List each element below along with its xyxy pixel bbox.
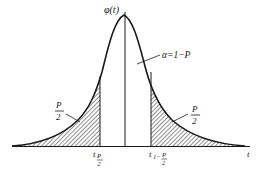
right-critical-value-label: t 1− P 2 bbox=[149, 149, 167, 166]
y-axis-label: φ(t) bbox=[104, 4, 120, 16]
svg-text:2: 2 bbox=[98, 160, 102, 167]
probability-density-diagram: φ(t) α=1−P P 2 P 2 t t P 2 t 1− P 2 bbox=[0, 0, 279, 178]
svg-text:t: t bbox=[149, 149, 152, 159]
svg-text:P: P bbox=[96, 152, 102, 160]
svg-text:P: P bbox=[191, 104, 198, 114]
svg-text:2: 2 bbox=[162, 160, 165, 166]
right-tail-label: P 2 bbox=[191, 104, 200, 126]
svg-text:P: P bbox=[55, 100, 62, 110]
left-critical-value-label: t P 2 bbox=[93, 149, 103, 167]
svg-text:2: 2 bbox=[192, 116, 197, 126]
left-tail-leader bbox=[66, 114, 80, 122]
center-region-label: α=1−P bbox=[162, 50, 191, 60]
center-label-leader bbox=[137, 55, 160, 64]
left-tail-label: P 2 bbox=[55, 100, 64, 122]
x-axis-label: t bbox=[247, 149, 250, 159]
svg-text:2: 2 bbox=[56, 112, 61, 122]
left-tail-shaded-area bbox=[12, 15, 245, 146]
density-curve bbox=[12, 15, 245, 146]
right-tail-leader bbox=[172, 114, 188, 122]
svg-text:P: P bbox=[161, 151, 166, 158]
svg-text:1−: 1− bbox=[153, 153, 161, 160]
right-tail-shaded-area bbox=[12, 15, 245, 146]
svg-text:t: t bbox=[93, 149, 96, 159]
